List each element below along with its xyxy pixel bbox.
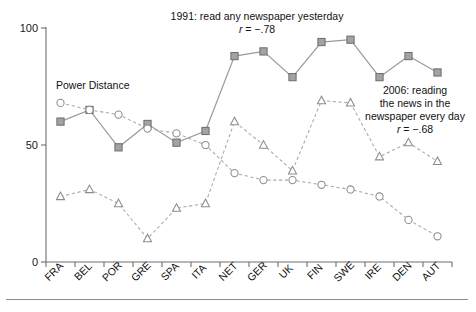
- bottom-divider: [6, 299, 468, 300]
- data-point: [115, 111, 122, 118]
- data-point: [405, 216, 412, 223]
- x-category-label-den: DEN: [390, 259, 414, 283]
- x-category-label-gre: GRE: [128, 259, 153, 284]
- annotation-power-distance-label: Power Distance: [56, 79, 130, 91]
- annotation-2006: 2006: readingthe news in thenewspaper ev…: [358, 84, 472, 136]
- data-point: [346, 98, 354, 106]
- annotation-2006-line3: newspaper every day: [365, 110, 465, 122]
- data-point: [114, 199, 122, 207]
- data-point: [376, 74, 383, 81]
- data-point: [317, 96, 325, 104]
- chart-plot-area: 050100 FRABELPORGRESPAITANETGERUKFINSWEI…: [0, 0, 476, 312]
- data-point: [376, 193, 383, 200]
- data-point: [259, 141, 267, 149]
- data-point: [173, 130, 180, 137]
- y-tick-label: 100: [20, 22, 38, 34]
- data-point: [288, 166, 296, 174]
- annotation-2006-r-value: = −.68: [400, 123, 433, 135]
- x-category-label-ita: ITA: [189, 261, 208, 280]
- data-point: [289, 74, 296, 81]
- data-point: [115, 144, 122, 151]
- data-point: [144, 125, 151, 132]
- annotation-1991: 1991: read any newspaper yesterdayr = −.…: [148, 10, 366, 36]
- data-point: [202, 141, 209, 148]
- data-point: [433, 157, 441, 165]
- data-point: [230, 117, 238, 125]
- data-point: [260, 177, 267, 184]
- data-point: [405, 52, 412, 59]
- data-point: [57, 99, 64, 106]
- x-category-label-uk: UK: [276, 262, 295, 281]
- data-point: [231, 52, 238, 59]
- data-point: [202, 127, 209, 134]
- data-point: [86, 106, 93, 113]
- annotation-1991-title: 1991: read any newspaper yesterday: [171, 10, 344, 22]
- data-point: [85, 185, 93, 193]
- data-point: [231, 169, 238, 176]
- data-point: [289, 177, 296, 184]
- annotation-2006-line1: 2006: reading: [383, 84, 447, 96]
- data-point: [260, 48, 267, 55]
- data-point: [375, 152, 383, 160]
- data-point: [347, 186, 354, 193]
- annotation-2006-line2: the news in the: [380, 97, 451, 109]
- y-tick-label: 0: [32, 256, 38, 268]
- chart-series: [56, 36, 441, 242]
- data-point: [173, 139, 180, 146]
- y-tick-label: 50: [26, 139, 38, 151]
- data-point: [434, 69, 441, 76]
- data-point: [57, 118, 64, 125]
- data-point: [201, 199, 209, 207]
- data-point: [404, 138, 412, 146]
- chart-figure: 050100 FRABELPORGRESPAITANETGERUKFINSWEI…: [0, 0, 476, 312]
- data-point: [347, 36, 354, 43]
- annotation-power-distance: Power Distance: [56, 79, 130, 92]
- data-point: [318, 38, 325, 45]
- data-point: [318, 181, 325, 188]
- data-point: [434, 233, 441, 240]
- annotation-1991-r-value: = −.78: [242, 23, 275, 35]
